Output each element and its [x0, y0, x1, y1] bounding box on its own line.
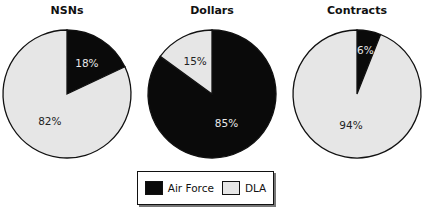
pie-title: NSNs — [51, 4, 84, 17]
pie-contracts: Contracts6%94% — [293, 4, 421, 158]
pie-label-air-force: 85% — [215, 117, 238, 129]
legend-swatch-dla — [222, 181, 240, 195]
pie-label-dla: 15% — [183, 55, 206, 67]
legend: Air Force DLA — [137, 171, 274, 205]
legend-item-air-force: Air Force — [145, 181, 214, 195]
legend-label-dla: DLA — [245, 182, 266, 194]
pie-label-air-force: 6% — [357, 44, 374, 56]
legend-label-air-force: Air Force — [168, 182, 214, 194]
pie-dollars: Dollars85%15% — [148, 4, 276, 158]
pie-title: Contracts — [327, 4, 387, 17]
pie-label-dla: 94% — [339, 119, 362, 131]
pie-label-dla: 82% — [38, 115, 61, 127]
pie-nsns: NSNs18%82% — [3, 4, 131, 158]
legend-item-dla: DLA — [222, 181, 266, 195]
legend-swatch-air-force — [145, 181, 163, 195]
pie-label-air-force: 18% — [75, 57, 98, 69]
pie-title: Dollars — [190, 4, 234, 17]
